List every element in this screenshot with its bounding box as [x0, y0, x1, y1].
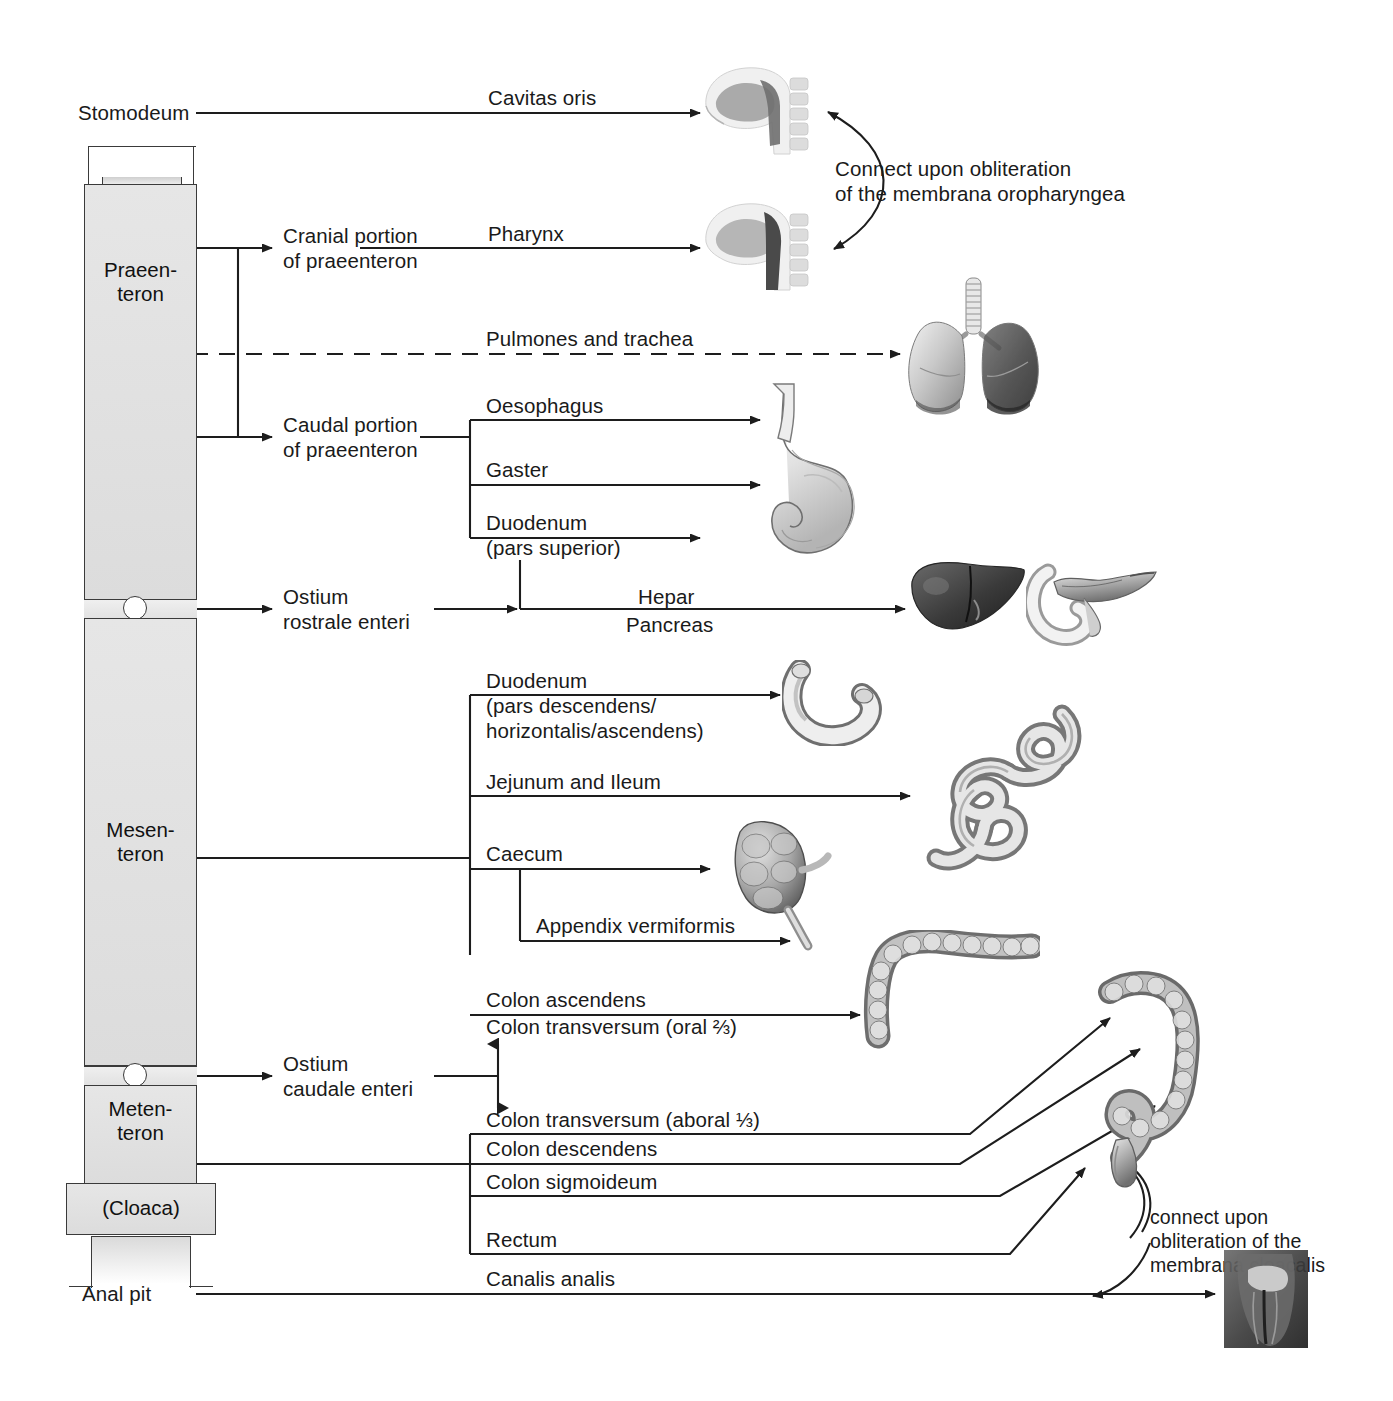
- label-gaster: Gaster: [486, 457, 548, 482]
- illustration-lungs-trachea: [898, 276, 1050, 420]
- label-cranial-portion-of-praeenteron: Cranial portion of praeenteron: [283, 223, 418, 273]
- illustration-small-intestine: [912, 700, 1092, 890]
- label-jejunum-and-ileum: Jejunum and Ileum: [486, 769, 661, 794]
- label-appendix-vermiformis: Appendix vermiformis: [536, 913, 735, 938]
- label-pulmones-and-trachea: Pulmones and trachea: [486, 326, 693, 351]
- label-anal-pit: Anal pit: [82, 1281, 151, 1306]
- illustration-duodenum-loop: [782, 660, 892, 746]
- label-colon-transversum-oral: Colon transversum (oral ⅔): [486, 1014, 737, 1039]
- illustration-anal-canal: [1214, 1244, 1318, 1354]
- label-oesophagus: Oesophagus: [486, 393, 603, 418]
- label-ostium-rostrale-enteri: Ostium rostrale enteri: [283, 584, 410, 634]
- ostium-rostrale-marker: [84, 599, 197, 619]
- anal-pit-top-edge: [91, 1236, 191, 1237]
- segment-label-praeenteron: Praeen- teron: [84, 258, 197, 306]
- label-colon-ascendens: Colon ascendens: [486, 987, 646, 1012]
- segment-praeenteron: [84, 184, 197, 602]
- ostium-caudale-dot: [123, 1063, 147, 1087]
- illustration-colon-distal: [1088, 970, 1268, 1190]
- stomodeum-flange-right: [170, 146, 196, 147]
- illustration-pancreas-duodenum: [1026, 558, 1162, 648]
- ostium-caudale-marker: [84, 1066, 197, 1086]
- stomodeum-flange-left: [88, 146, 112, 147]
- label-ostium-caudale-enteri: Ostium caudale enteri: [283, 1051, 413, 1101]
- label-colon-sigmoideum: Colon sigmoideum: [486, 1169, 657, 1194]
- illustration-caecum-appendix: [716, 818, 836, 958]
- segment-label-mesenteron: Mesen- teron: [84, 818, 197, 866]
- label-duodenum-pars-superior: Duodenum (pars superior): [486, 510, 621, 560]
- annotation-membrana-oropharyngea: Connect upon obliteration of the membran…: [835, 156, 1125, 206]
- label-canalis-analis: Canalis analis: [486, 1266, 615, 1291]
- label-pancreas: Pancreas: [626, 612, 713, 637]
- illustration-head-sagittal-pharynx: [694, 198, 814, 298]
- illustration-stomach-oesophagus: [752, 380, 882, 570]
- segment-label-cloaca: (Cloaca): [66, 1196, 216, 1220]
- label-pharynx: Pharynx: [488, 221, 564, 246]
- anal-pit-flange-right: [189, 1286, 213, 1287]
- label-caecum: Caecum: [486, 841, 563, 866]
- label-rectum: Rectum: [486, 1227, 557, 1252]
- illustration-head-sagittal-oral: [694, 62, 814, 162]
- segment-label-metenteron: Meten- teron: [84, 1097, 197, 1145]
- illustration-liver: [908, 556, 1028, 642]
- label-colon-transversum-aboral: Colon transversum (aboral ⅓): [486, 1107, 760, 1132]
- label-caudal-portion-of-praeenteron: Caudal portion of praeenteron: [283, 412, 418, 462]
- illustration-colon-proximal: [860, 930, 1040, 1050]
- label-cavitas-oris: Cavitas oris: [488, 85, 596, 110]
- label-colon-descendens: Colon descendens: [486, 1136, 657, 1161]
- gut-tube-derivation-diagram: Praeen- teron Mesen- teron Meten- teron …: [0, 0, 1393, 1401]
- label-stomodeum: Stomodeum: [78, 100, 189, 125]
- ostium-rostrale-dot: [123, 596, 147, 620]
- label-hepar: Hepar: [638, 584, 694, 609]
- label-duodenum-pars-descendens: Duodenum (pars descendens/ horizontalis/…: [486, 668, 704, 743]
- stomodeum-neck: [102, 177, 182, 184]
